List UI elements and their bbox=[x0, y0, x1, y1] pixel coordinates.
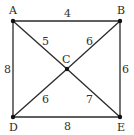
edge-e-c bbox=[67, 69, 120, 117]
node-label-c: C bbox=[62, 53, 70, 66]
node-label-d: D bbox=[9, 121, 18, 134]
graph-svg: 48685667 ABCDE bbox=[0, 0, 134, 135]
node-label-a: A bbox=[8, 4, 18, 17]
node-e-dot-icon bbox=[118, 115, 122, 119]
edge-a-c bbox=[13, 21, 67, 69]
node-c-dot-icon bbox=[65, 67, 69, 71]
edge-weight-b-c: 6 bbox=[86, 35, 93, 48]
edge-weight-a-d: 8 bbox=[4, 63, 11, 76]
edge-weight-b-e: 6 bbox=[122, 63, 129, 76]
edge-weight-d-e: 8 bbox=[64, 120, 71, 133]
node-label-b: B bbox=[117, 4, 125, 17]
graph-diagram: 48685667 ABCDE bbox=[0, 0, 134, 135]
edge-weight-e-c: 7 bbox=[86, 93, 93, 106]
node-d-dot-icon bbox=[11, 115, 15, 119]
edge-b-c bbox=[67, 21, 120, 69]
edge-weight-d-c: 6 bbox=[42, 93, 49, 106]
edge-weight-a-b: 4 bbox=[64, 7, 71, 20]
node-b-dot-icon bbox=[118, 19, 122, 23]
node-label-e: E bbox=[117, 121, 125, 134]
edge-weight-a-c: 5 bbox=[42, 35, 49, 48]
edge-d-c bbox=[13, 69, 67, 117]
node-a-dot-icon bbox=[11, 19, 15, 23]
